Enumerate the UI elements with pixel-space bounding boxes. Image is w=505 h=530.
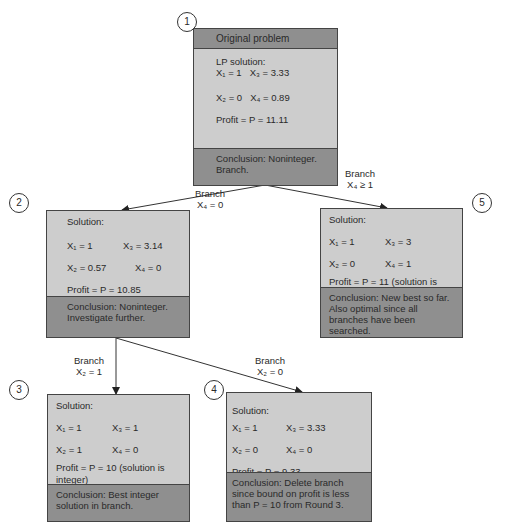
- solution-label: Solution:: [329, 214, 454, 230]
- node-5: Solution: X₁ = 1X₃ = 3 X₂ = 0X₄ = 1 Prof…: [320, 208, 463, 338]
- x3-value: X₃ = 3.33: [286, 422, 326, 433]
- solution-label: Solution:: [56, 400, 181, 416]
- node-header: Original problem: [194, 29, 337, 49]
- node-original-problem: Original problem LP solution: X₁ = 1X₃ =…: [193, 28, 338, 186]
- branch-label-x4-0: BranchX₄ = 0: [195, 188, 225, 210]
- x3-value: X₃ = 1: [112, 422, 138, 433]
- solution-label: Solution:: [232, 398, 363, 416]
- x1-value: X₁ = 1: [329, 236, 385, 247]
- conclusion: Conclusion: Noninteger. Branch.: [194, 148, 337, 185]
- x1-value: X₁ = 1: [56, 422, 112, 433]
- x1-value: X₁ = 1: [216, 67, 242, 81]
- node-3: Solution: X₁ = 1X₃ = 1 X₂ = 1X₄ = 0 Prof…: [47, 394, 190, 522]
- x4-value: X₄ = 1: [385, 258, 411, 269]
- x4-value: X₄ = 0.89: [250, 92, 290, 103]
- x2-value: X₂ = 1: [56, 444, 112, 455]
- node-number-2: 2: [9, 193, 29, 213]
- x3-value: X₃ = 3: [385, 236, 411, 247]
- x4-value: X₄ = 0: [112, 444, 138, 455]
- x3-value: X₃ = 3.14: [123, 240, 163, 251]
- node-number-4: 4: [204, 380, 224, 400]
- conclusion: Conclusion: Noninteger. Investigate furt…: [47, 296, 189, 337]
- x2-value: X₂ = 0: [232, 444, 286, 455]
- branch-label-x2-0: BranchX₂ = 0: [255, 355, 285, 377]
- node-2: Solution: X₁ = 1X₃ = 3.14 X₂ = 0.57X₄ = …: [46, 210, 190, 338]
- x1-value: X₁ = 1: [67, 240, 123, 251]
- edge-1-2: [122, 185, 265, 210]
- x2-value: X₂ = 0: [216, 92, 242, 103]
- x2-value: X₂ = 0: [329, 258, 385, 269]
- node-number-3: 3: [9, 380, 29, 400]
- conclusion: Conclusion: Best integer solution in bra…: [48, 484, 189, 521]
- solution-label: LP solution:: [216, 56, 329, 67]
- branch-label-x4-ge1: BranchX₄ ≥ 1: [345, 168, 375, 190]
- x3-value: X₃ = 3.33: [250, 67, 290, 81]
- conclusion: Conclusion: New best so far. Also optima…: [321, 287, 462, 337]
- x1-value: X₁ = 1: [232, 422, 286, 433]
- x4-value: X₄ = 0: [286, 444, 312, 455]
- solution-label: Solution:: [67, 216, 181, 234]
- profit-value: Profit = P = 11.11: [216, 109, 329, 129]
- x2-value: X₂ = 0.57: [67, 262, 135, 273]
- profit-value: Profit = P = 10 (solution is integer): [56, 462, 181, 486]
- branch-label-x2-1: BranchX₂ = 1: [74, 355, 104, 377]
- conclusion: Conclusion: Delete branch since bound on…: [227, 472, 371, 521]
- x4-value: X₄ = 0: [135, 262, 161, 273]
- node-number-5: 5: [472, 193, 492, 213]
- node-4: Solution: X₁ = 1X₃ = 3.33 X₂ = 0X₄ = 0 P…: [226, 392, 372, 522]
